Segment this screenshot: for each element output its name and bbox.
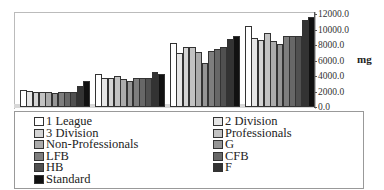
legend-swatch [213,152,223,161]
legend-swatch [34,129,44,138]
legend-label: Standard [46,172,90,186]
bar [83,81,90,107]
legend-swatch [34,163,44,172]
bar [158,74,165,107]
legend-label: Professionals [225,126,292,140]
y-tick-mark [314,61,317,62]
legend-swatch [34,117,44,126]
y-tick-mark [314,107,317,108]
legend-swatch [34,152,44,161]
y-axis-label: mg [357,53,372,65]
legend-swatch [213,140,223,149]
y-tick-label: 4000.0 [318,71,344,81]
y-tick-mark [314,14,317,15]
legend-item: F [213,161,232,173]
y-tick-mark [314,92,317,93]
legend-swatch [213,117,223,126]
legend-label: F [225,160,232,174]
y-tick-mark [314,45,317,46]
legend-swatch [34,175,44,184]
y-tick-label: 8000.0 [318,40,344,50]
legend-swatch [213,129,223,138]
y-tick-label: 12000.0 [318,9,349,19]
legend: 1 League3 DivisionNon-ProfessionalsLFBHB… [14,111,364,189]
y-tick-mark [314,30,317,31]
y-tick-mark [314,76,317,77]
y-tick-label: 2000.0 [318,87,344,97]
y-tick-label: 6000.0 [318,56,344,66]
legend-item: Standard [34,173,90,185]
legend-swatch [34,140,44,149]
legend-swatch [213,163,223,172]
y-tick-label: 10000.0 [318,25,349,35]
bar [233,36,240,107]
